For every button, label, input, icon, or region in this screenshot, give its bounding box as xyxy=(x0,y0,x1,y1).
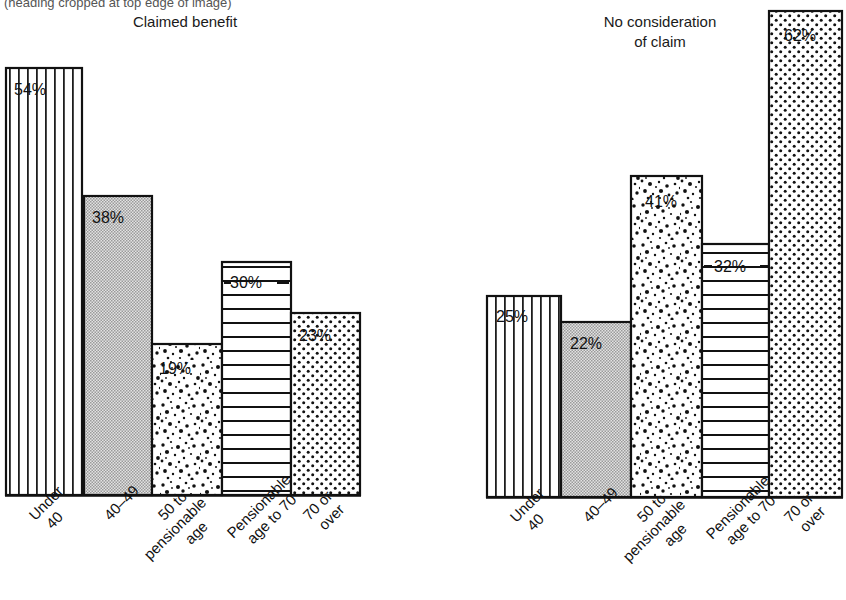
value-label-70-or-over-right: 62% xyxy=(784,27,816,44)
bar-50-to-pensionable-age-right[interactable] xyxy=(631,176,702,497)
value-label-40-49-right: 22% xyxy=(570,335,602,352)
value-label-40-49: 38% xyxy=(92,209,124,226)
bar-pensionable-age-to-70[interactable] xyxy=(222,262,291,495)
bar-under-40-right[interactable] xyxy=(487,296,561,497)
chart-title-no-consideration-line1: No consideration xyxy=(604,13,717,30)
value-label-under-40: 54% xyxy=(14,81,46,98)
value-label-50-to-pensionable-age: 19% xyxy=(159,360,191,377)
bar-40-49[interactable] xyxy=(84,196,152,495)
value-label-under-40-right: 25% xyxy=(496,308,528,325)
chart-claimed-benefit: Claimed benefit 54% 38% 19% 30% 23% Unde… xyxy=(5,13,361,576)
cropped-heading: (heading cropped at top edge of image) xyxy=(4,0,232,10)
value-label-pensionable-age-to-70-right: 32% xyxy=(714,258,746,275)
bar-pensionable-age-to-70-right[interactable] xyxy=(702,244,769,497)
value-label-70-or-over: 23% xyxy=(299,327,331,344)
value-label-pensionable-age-to-70: 30% xyxy=(230,274,262,291)
bar-under-40[interactable] xyxy=(6,68,82,495)
figure-canvas: (heading cropped at top edge of image) C… xyxy=(0,0,846,600)
value-label-50-to-pensionable-age-right: 41% xyxy=(645,193,677,210)
chart-title-no-consideration-line2: of claim xyxy=(634,33,686,50)
chart-no-consideration-of-claim: No consideration of claim 25% 22% 41% 32… xyxy=(486,11,843,578)
chart-title-claimed-benefit: Claimed benefit xyxy=(133,13,238,30)
bar-70-or-over-right[interactable] xyxy=(769,11,842,497)
bar-chart-figure: (heading cropped at top edge of image) C… xyxy=(0,0,846,600)
